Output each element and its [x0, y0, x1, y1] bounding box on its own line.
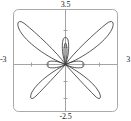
- petal-upper-left: [18, 22, 66, 65]
- petal-upper-right: [66, 22, 114, 65]
- polar-plot-figure: 3.5 -3 3 -2.5: [0, 0, 131, 121]
- petal-lower-right: [66, 65, 101, 99]
- plot-canvas: [0, 0, 131, 121]
- petal-lower-left: [31, 65, 66, 99]
